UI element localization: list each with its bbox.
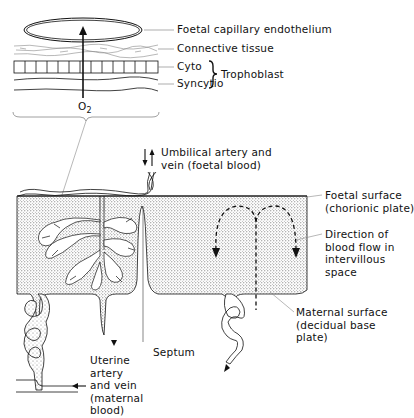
label-connective-tissue: Connective tissue bbox=[177, 42, 274, 55]
label-maternal-surface: Maternal surface (decidual base plate) bbox=[296, 306, 388, 344]
oxygen-subscript: 2 bbox=[86, 106, 91, 115]
uterine-vessel bbox=[16, 380, 78, 392]
label-septum: Septum bbox=[153, 346, 195, 359]
label-foetal-capillary-endothelium: Foetal capillary endothelium bbox=[177, 23, 332, 36]
label-direction-blood-flow: Direction of blood flow in intervillous … bbox=[325, 228, 395, 278]
label-foetal-surface: Foetal surface (chorionic plate) bbox=[325, 189, 414, 214]
vein-arrowhead bbox=[111, 340, 117, 346]
label-oxygen: O2 bbox=[78, 100, 92, 118]
umbilical-arrows bbox=[143, 149, 155, 166]
label-uterine: Uterine artery and vein (maternal blood) bbox=[90, 354, 143, 417]
cytotrophoblast-cells bbox=[14, 61, 158, 73]
label-trophoblast: Trophoblast bbox=[221, 68, 284, 81]
right-artery-arrow bbox=[224, 364, 230, 372]
label-syncytio: Syncytio bbox=[177, 77, 224, 90]
syncytiotrophoblast bbox=[14, 77, 158, 91]
uterine-arrow bbox=[72, 383, 86, 389]
label-umbilical: Umbilical artery and vein (foetal blood) bbox=[161, 146, 272, 171]
intervillous-space bbox=[17, 196, 307, 340]
connective-tissue bbox=[14, 44, 158, 58]
label-cyto: Cyto bbox=[177, 60, 202, 73]
spiral-artery-right bbox=[222, 294, 245, 364]
